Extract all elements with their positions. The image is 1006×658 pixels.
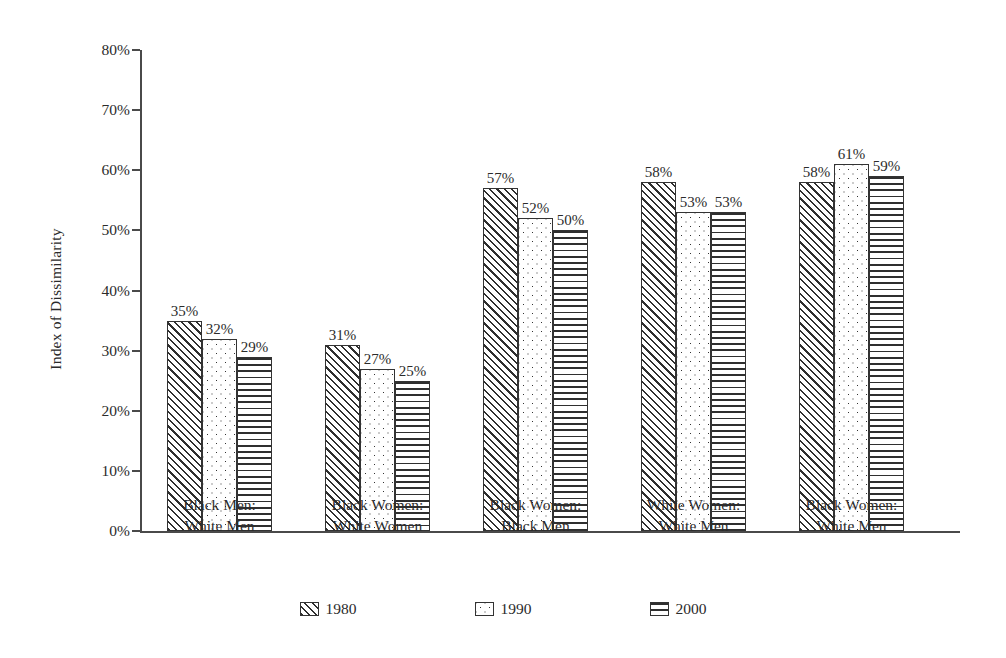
bar-value-label: 52% [522,201,550,216]
y-tick-mark [132,49,140,51]
category-label-line1: Black Women: [332,496,424,513]
bar[interactable]: 53% [711,212,746,531]
category-label-line1: Black Women: [806,496,898,513]
y-tick-label: 10% [70,463,130,479]
bar[interactable]: 58% [641,182,676,531]
category-label-line1: Black Men: [183,496,256,513]
bar[interactable]: 61% [834,164,869,531]
bar[interactable]: 50% [553,230,588,531]
x-axis-category-label: Black Women:White Men [752,495,952,537]
legend-swatch-1980 [300,602,319,616]
bar[interactable]: 59% [869,176,904,531]
category-label-line1: White Women: [647,496,741,513]
bar[interactable]: 53% [676,212,711,531]
y-tick-mark [132,229,140,231]
bar-group: 58%61%59% [799,50,904,531]
bar-value-label: 58% [803,165,831,180]
legend-item[interactable]: 1990 [475,600,532,618]
y-tick-mark [132,169,140,171]
y-tick-label: 70% [70,102,130,118]
y-tick-label: 80% [70,42,130,58]
y-tick-mark [132,470,140,472]
y-tick-mark [132,290,140,292]
y-tick-label: 20% [70,403,130,419]
bar-value-label: 32% [206,322,234,337]
legend-item[interactable]: 1980 [300,600,357,618]
bar[interactable]: 57% [483,188,518,531]
y-tick-mark [132,350,140,352]
bar-value-label: 25% [399,364,427,379]
bar-value-label: 59% [873,159,901,174]
bar-group: 31%27%25% [325,50,430,531]
y-axis-title: Index of Dissimilarity [47,189,65,409]
bar-value-label: 61% [838,147,866,162]
bar[interactable]: 52% [518,218,553,531]
bar-chart: Index of Dissimilarity 0%10%20%30%40%50%… [0,0,1006,658]
y-tick-mark [132,109,140,111]
category-label-line1: Black Women: [490,496,582,513]
y-tick-label: 30% [70,343,130,359]
y-tick-label: 60% [70,163,130,179]
bar-value-label: 31% [329,328,357,343]
bar-value-label: 27% [364,352,392,367]
bar[interactable]: 58% [799,182,834,531]
y-tick-label: 40% [70,283,130,299]
legend-label: 1980 [326,600,357,618]
chart-legend: 198019902000 [0,600,1006,618]
legend-item[interactable]: 2000 [650,600,707,618]
bar-value-label: 58% [645,165,673,180]
y-tick-label: 50% [70,223,130,239]
y-axis-line [140,50,142,531]
bar-value-label: 53% [715,195,743,210]
bar-value-label: 35% [171,304,199,319]
legend-label: 1990 [501,600,532,618]
plot-area: 0%10%20%30%40%50%60%70%80% 35%32%29%31%2… [140,50,960,531]
legend-swatch-2000 [650,602,669,616]
bar-group: 35%32%29% [167,50,272,531]
legend-swatch-1990 [475,602,494,616]
bar-group: 57%52%50% [483,50,588,531]
bar-value-label: 50% [557,213,585,228]
bar-value-label: 53% [680,195,708,210]
legend-label: 2000 [676,600,707,618]
category-label-line2: White Men [752,516,952,537]
bar-group: 58%53%53% [641,50,746,531]
y-tick-mark [132,410,140,412]
bar-value-label: 29% [241,340,269,355]
bar-value-label: 57% [487,171,515,186]
